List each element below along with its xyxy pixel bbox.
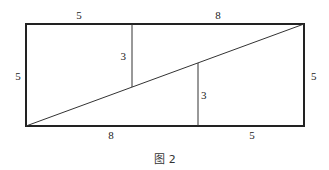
diagonal-line [26, 24, 304, 126]
label-inner-right-segment: 3 [201, 89, 207, 101]
label-left-side: 5 [15, 70, 21, 82]
label-right-side: 5 [311, 70, 317, 82]
label-inner-left-segment: 3 [121, 50, 127, 62]
label-bottom-left: 8 [108, 129, 114, 141]
diagram: 5 8 5 5 8 5 3 3 图 2 [0, 0, 329, 170]
label-top-right: 8 [215, 9, 221, 21]
label-bottom-right: 5 [249, 129, 255, 141]
label-top-left: 5 [76, 9, 82, 21]
figure-caption: 图 2 [154, 153, 176, 166]
